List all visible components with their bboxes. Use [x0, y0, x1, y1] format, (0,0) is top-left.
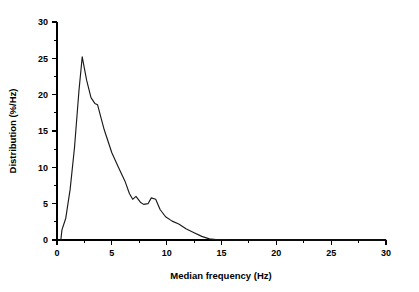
y-tick-label: 5 [43, 199, 48, 209]
x-axis-title: Median frequency (Hz) [170, 270, 271, 281]
y-tick-label: 0 [43, 235, 48, 245]
y-tick-label: 15 [38, 126, 48, 136]
x-tick-label: 10 [162, 248, 172, 258]
chart-figure: 051015202530 051015202530 Median frequen… [0, 0, 419, 292]
x-tick-label: 20 [271, 248, 281, 258]
x-tick-label: 0 [54, 248, 59, 258]
chart-background [0, 0, 419, 292]
x-tick-label: 15 [216, 248, 226, 258]
y-tick-label: 25 [38, 54, 48, 64]
y-tick-label: 10 [38, 163, 48, 173]
y-tick-label: 30 [38, 17, 48, 27]
x-tick-label: 30 [381, 248, 391, 258]
x-tick-label: 5 [109, 248, 114, 258]
y-tick-label: 20 [38, 90, 48, 100]
y-axis-title: Distribution (%/Hz) [7, 89, 18, 174]
x-tick-label: 25 [326, 248, 336, 258]
median-frequency-distribution-chart: 051015202530 051015202530 Median frequen… [0, 0, 419, 292]
